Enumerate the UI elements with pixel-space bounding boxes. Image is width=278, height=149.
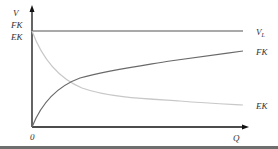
vl-subscript: L xyxy=(261,32,266,38)
y-axis-arrow-icon xyxy=(30,5,35,12)
y-tick-fk-label: FK xyxy=(10,20,23,30)
fk-curve xyxy=(32,51,243,127)
fk-curve-label: FK xyxy=(255,47,268,57)
vl-line-label: VL xyxy=(256,27,266,38)
x-axis-arrow-icon xyxy=(242,125,249,130)
ek-fk-diagram: V FK EK 0 Q VL FK EK xyxy=(0,0,278,149)
ek-curve xyxy=(32,31,243,105)
bottom-divider xyxy=(0,146,278,149)
x-axis-label: Q xyxy=(233,133,240,143)
y-axis-label: V xyxy=(13,8,20,18)
y-tick-ek-label: EK xyxy=(10,32,23,42)
origin-label: 0 xyxy=(30,132,35,142)
ek-curve-label: EK xyxy=(255,101,268,111)
